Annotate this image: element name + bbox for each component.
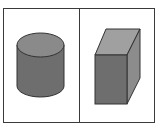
shapes-canvas: [0, 0, 163, 125]
prism-shape: [95, 29, 140, 104]
cylinder-shape: [17, 33, 64, 97]
